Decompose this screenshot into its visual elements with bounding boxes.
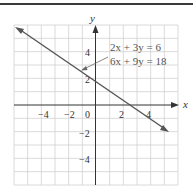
- x-tick-label: −2: [64, 109, 75, 120]
- annotation-pointer: [81, 57, 108, 71]
- y-tick-label: −4: [79, 154, 90, 165]
- y-axis-arrow-icon: [93, 25, 99, 33]
- x-tick-label: 0: [85, 109, 90, 120]
- x-axis-label: x: [182, 98, 188, 110]
- y-tick-label: −2: [79, 128, 90, 139]
- coordinate-plane: x y −4 −2 0 2 4 4 2 −2 −4 2x + 3y = 6 6x…: [0, 0, 193, 196]
- x-tick-label: −4: [38, 109, 49, 120]
- x-tick-label: 2: [119, 109, 124, 120]
- equation-label-2: 6x + 9y = 18: [110, 55, 167, 67]
- y-tick-label: 4: [85, 47, 90, 58]
- line-arrow-start-icon: [15, 27, 24, 34]
- y-axis-label: y: [89, 12, 95, 24]
- equation-label-1: 2x + 3y = 6: [110, 41, 161, 53]
